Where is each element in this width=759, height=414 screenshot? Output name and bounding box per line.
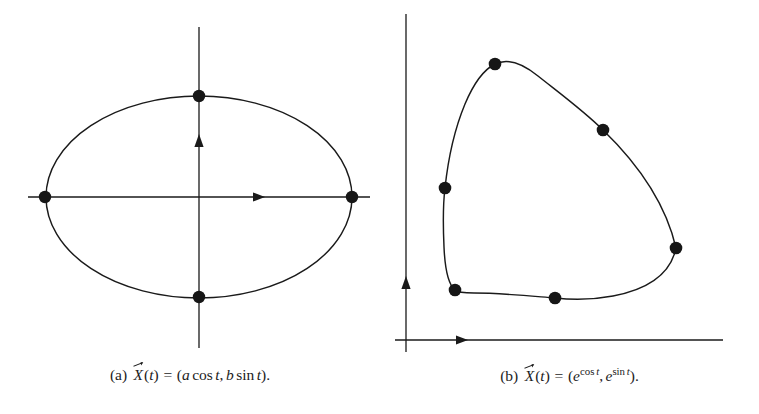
- marked-point: [449, 284, 462, 297]
- caption-b-base-x: e: [573, 367, 580, 384]
- caption-b-comma: ,: [599, 367, 603, 384]
- vector-x-symbol-a: X: [134, 366, 144, 383]
- caption-a-coef-y: b: [226, 366, 234, 383]
- x-axis-arrow-icon-b: [456, 335, 468, 344]
- caption-a-fn-y: sin: [236, 366, 254, 383]
- marked-point: [193, 291, 205, 303]
- marked-point: [346, 191, 358, 203]
- marked-point: [439, 182, 452, 195]
- caption-b-label: (b): [500, 367, 518, 384]
- caption-b-exp-fn-x: cos: [580, 365, 594, 377]
- y-axis-arrow-icon-a: [194, 134, 203, 147]
- caption-a-equals: =: [163, 366, 172, 383]
- caption-b-exponent-x: cost: [580, 365, 599, 377]
- caption-a-comma: ,: [220, 366, 224, 383]
- x-axis-arrow-icon-a: [253, 192, 265, 201]
- figure-panel-a: (a)X(t)=(acost,bsint).: [0, 0, 380, 414]
- caption-b-vec-letter: X: [525, 367, 534, 384]
- marked-point: [670, 242, 683, 255]
- caption-a-vec-letter: X: [134, 366, 143, 383]
- marked-point: [39, 191, 51, 203]
- caption-a-coef-x: a: [182, 366, 190, 383]
- plot-exponential-curve: [380, 0, 759, 360]
- exponential-curve: [443, 61, 676, 299]
- caption-a-period: .: [266, 366, 270, 383]
- vector-x-symbol-b: X: [525, 367, 535, 384]
- plot-ellipse: [0, 0, 380, 360]
- marked-point: [193, 90, 205, 102]
- caption-b-arg-close: ): [545, 367, 550, 384]
- figure-panel-b: (b)X(t)=(ecost,esint).: [380, 0, 759, 414]
- figure-sheet: (a)X(t)=(acost,bsint). (b)X(t)=(ecost,es…: [0, 0, 759, 414]
- caption-a-fn-x: cos: [192, 366, 213, 383]
- caption-a: (a)X(t)=(acost,bsint).: [0, 366, 380, 383]
- caption-a-label: (a): [110, 366, 127, 383]
- marked-point: [489, 58, 502, 71]
- caption-a-arg-close: ): [154, 366, 159, 383]
- marked-point: [549, 292, 562, 305]
- marked-point: [597, 124, 610, 137]
- caption-b: (b)X(t)=(ecost,esint).: [380, 366, 759, 384]
- caption-b-period: .: [635, 367, 639, 384]
- caption-b-exp-fn-y: sin: [612, 365, 625, 377]
- y-axis-arrow-icon-b: [401, 276, 410, 289]
- caption-b-equals: =: [554, 367, 563, 384]
- caption-b-exponent-y: sint: [612, 365, 629, 377]
